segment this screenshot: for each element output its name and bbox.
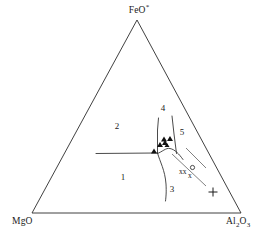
vertex-label-feo-superscript: * (146, 3, 150, 11)
boundary-field4-left-edge (158, 118, 159, 153)
data-marker-triangle (151, 149, 157, 154)
data-marker-plus (209, 188, 218, 197)
data-marker-open-circle (190, 165, 194, 169)
vertex-label-al2o3-sub2: 3 (247, 221, 251, 229)
vertex-label-al2o3: Al2O3 (226, 216, 270, 226)
vertex-label-feo: FeO* (120, 5, 158, 15)
field-label-4: 4 (157, 103, 169, 113)
annotation-xx-primary: xx (179, 167, 187, 176)
boundary-field3-curve (158, 153, 167, 201)
boundary-horizontal-divider (96, 153, 157, 154)
field-label-5: 5 (176, 127, 188, 137)
vertex-label-al2o3-mid: O (240, 216, 247, 226)
tie-line-upper (186, 148, 206, 168)
field-label-3: 3 (166, 184, 178, 194)
data-marker-triangle (161, 137, 167, 142)
vertex-label-feo-text: FeO (129, 5, 146, 15)
vertex-label-mgo: MgO (12, 216, 52, 226)
vertex-label-mgo-text: MgO (12, 216, 33, 226)
tie-lines (172, 148, 206, 186)
ternary-triangle-outline (32, 20, 241, 213)
field-label-1: 1 (117, 172, 129, 182)
plot-canvas (0, 0, 270, 239)
boundary-field5-arc (158, 148, 184, 159)
ternary-diagram-figure: FeO* MgO Al2O3 2 1 4 5 3 xx x (0, 0, 270, 239)
field-label-2: 2 (111, 121, 123, 131)
vertex-label-al2o3-text: Al (226, 216, 236, 226)
annotation-xx-secondary: x (188, 171, 192, 180)
tie-line-main (172, 154, 206, 186)
data-marker-triangle (167, 136, 173, 141)
